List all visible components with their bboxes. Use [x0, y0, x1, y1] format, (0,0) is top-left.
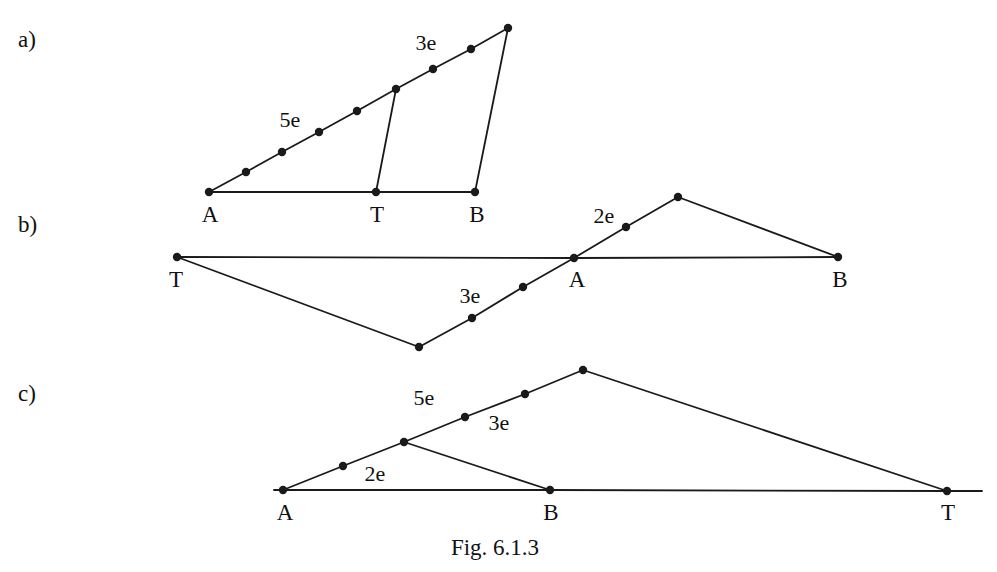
point-vertex-t — [943, 487, 951, 495]
panel-a-vertex-label-a: A — [202, 203, 219, 226]
panel-c-vertex-label-b: B — [543, 501, 558, 524]
base-line-a-t — [274, 490, 982, 491]
panel-label-c: c) — [18, 382, 36, 405]
panel-c-edge-label-5e: 5e — [414, 387, 435, 409]
chord-b-apex — [475, 28, 508, 192]
chord-junction-b — [404, 442, 550, 490]
panel-a-vertex-label-b: B — [469, 203, 484, 226]
point-apex-dot — [579, 366, 587, 374]
point-vertex-b — [471, 188, 479, 196]
point-vertex-b — [834, 253, 842, 261]
panel-a-vertex-label-t: T — [370, 203, 384, 226]
point-slope-dot-3 — [315, 128, 323, 136]
point-slope-dot-7 — [467, 45, 475, 53]
point-junction-dot — [392, 85, 400, 93]
panel-c-edge-label-3e: 3e — [489, 412, 510, 434]
panel-c-vertex-label-a: A — [277, 501, 294, 524]
panel-b-edge-label-3e: 3e — [460, 285, 481, 307]
point-slope-dot-2 — [519, 283, 527, 291]
chord-apex-t — [583, 370, 947, 491]
chord-t-junction — [376, 89, 396, 192]
chord-apex-b — [678, 197, 838, 257]
point-apex-dot — [504, 24, 512, 32]
point-slope-dot-3 — [622, 223, 630, 231]
point-slope-dot-2 — [278, 148, 286, 156]
point-vertex-b — [546, 486, 554, 494]
point-apex-dot — [674, 193, 682, 201]
base-line-t-b — [177, 257, 838, 258]
panel-c-vertex-label-t: T — [941, 501, 955, 524]
figure-caption: Fig. 6.1.3 — [451, 536, 539, 559]
point-vertex-a — [279, 486, 287, 494]
point-slope-dot-2 — [461, 413, 469, 421]
point-slope-dot-6 — [429, 65, 437, 73]
point-slope-dot-1 — [242, 168, 250, 176]
panel-c-edge-label-2e: 2e — [365, 463, 386, 485]
panel-b-vertex-label-b: B — [832, 268, 847, 291]
panel-b-vertex-label-t: T — [169, 268, 183, 291]
panel-label-a: a) — [18, 28, 36, 51]
panel-b-vertex-label-a: A — [569, 268, 586, 291]
panel-a-edge-label-5e: 5e — [280, 109, 301, 131]
point-slope-dot-1 — [339, 462, 347, 470]
point-slope-dot-4 — [353, 107, 361, 115]
panel-b-geometry — [173, 193, 842, 351]
panel-a-geometry — [205, 24, 512, 196]
point-vertex-a — [205, 188, 213, 196]
point-slope-dot-3 — [521, 390, 529, 398]
panel-a-edge-label-3e: 3e — [416, 32, 437, 54]
point-vertex-t — [173, 253, 181, 261]
figure-container: a)ATB5e3eb)TAB2e3ec)ABT5e3e2e Fig. 6.1.3 — [0, 0, 997, 572]
panel-label-b: b) — [18, 213, 37, 236]
point-bottom-vertex-dot — [415, 343, 423, 351]
panel-b-edge-label-2e: 2e — [594, 205, 615, 227]
point-slope-dot-1 — [468, 314, 476, 322]
point-junction-dot — [400, 438, 408, 446]
point-vertex-a — [570, 254, 578, 262]
point-vertex-t — [372, 188, 380, 196]
